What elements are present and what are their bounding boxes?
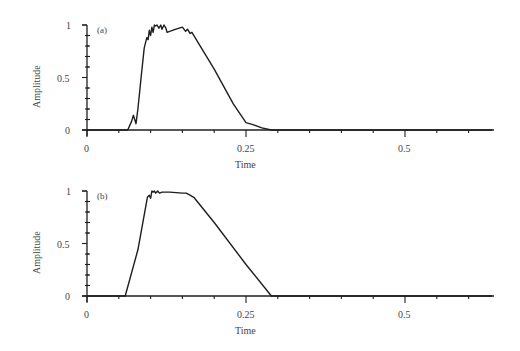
panel-b-trace xyxy=(87,191,494,296)
panel-a-ytick-1: 1 xyxy=(66,20,71,31)
panel-a-trace xyxy=(87,25,494,130)
panel-b-ylabel: Amplitude xyxy=(31,231,42,274)
panel-a-xlabel: Time xyxy=(235,159,256,170)
panel-b-xtick-025: 0.25 xyxy=(237,309,255,320)
panel-b-axes xyxy=(82,191,492,303)
panel-b-xtick-05: 0.5 xyxy=(398,309,411,320)
panel-b-xlabel: Time xyxy=(235,325,256,336)
panel-b-ytick-1: 1 xyxy=(66,186,71,197)
panel-b-ytick-05: 0.5 xyxy=(57,239,70,250)
panel-b-label: (b) xyxy=(97,191,108,201)
panel-a-ylabel: Amplitude xyxy=(31,65,42,108)
panel-a: (a) 1 0.5 0 0 0.25 0.5 Time Amplitude xyxy=(31,20,494,170)
panel-a-xtick-025: 0.25 xyxy=(237,143,255,154)
panel-b-xtick-0: 0 xyxy=(84,309,89,320)
panel-a-ytick-05: 0.5 xyxy=(57,73,70,84)
panel-a-label: (a) xyxy=(97,25,107,35)
panel-a-ytick-0: 0 xyxy=(65,125,70,136)
panel-b: (b) 1 0.5 0 0 0.25 0.5 Time Amplitude xyxy=(31,186,494,336)
panel-b-ytick-0: 0 xyxy=(65,291,70,302)
panel-a-xtick-05: 0.5 xyxy=(398,143,411,154)
panel-a-axes xyxy=(82,25,492,137)
chart-figure: (a) 1 0.5 0 0 0.25 0.5 Time Amplitude (b… xyxy=(0,0,520,351)
panel-a-xtick-0: 0 xyxy=(84,143,89,154)
